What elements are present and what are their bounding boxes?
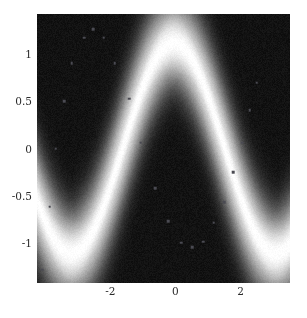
y-tick-label: 0: [0, 144, 32, 155]
x-tick-label: 0: [160, 286, 190, 297]
data-point: [71, 62, 74, 65]
data-point: [102, 36, 105, 39]
data-point: [248, 109, 251, 112]
y-tick-label: -0.5: [0, 191, 32, 202]
data-point: [128, 97, 131, 100]
y-tick-label: 1: [0, 49, 32, 60]
data-point: [41, 269, 44, 272]
data-point: [255, 81, 258, 84]
data-point: [92, 28, 95, 31]
data-point: [213, 222, 216, 225]
data-point: [48, 206, 51, 209]
data-point: [241, 142, 244, 145]
y-tick-label: 0.5: [0, 96, 32, 107]
data-point: [202, 240, 205, 243]
data-point: [63, 100, 66, 103]
plot-area: [37, 14, 290, 283]
density-plot-figure: 10.50-0.5-1 -202: [0, 0, 307, 318]
data-point: [154, 187, 157, 190]
data-point: [55, 147, 58, 150]
data-point: [140, 142, 143, 145]
data-point: [191, 246, 194, 249]
x-tick-label: 2: [226, 286, 256, 297]
data-point: [223, 201, 226, 204]
data-point: [232, 171, 235, 174]
x-tick-label: -2: [95, 286, 125, 297]
data-point: [83, 36, 86, 39]
scatter-points-layer: [37, 14, 290, 283]
data-point: [180, 241, 183, 244]
data-point: [167, 220, 170, 223]
data-point: [114, 62, 117, 65]
y-tick-label: -1: [0, 238, 32, 249]
